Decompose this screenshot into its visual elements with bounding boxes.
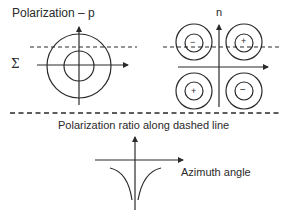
left-panel-title: Polarization – p: [12, 6, 95, 20]
diagram-canvas: [0, 0, 290, 219]
right-quadrant-plot: [163, 24, 280, 109]
sigma-label: Σ: [11, 57, 19, 71]
ratio-curve-left: [110, 168, 132, 200]
ratio-curve-right: [138, 168, 161, 200]
sign-top-left: −: [190, 37, 195, 47]
sign-bottom-left: +: [191, 86, 196, 96]
left-polarization-plot: [30, 27, 137, 105]
azimuth-axis-label: Azimuth angle: [181, 166, 251, 178]
sign-bottom-right: −: [240, 84, 246, 95]
sign-top-right: +: [241, 36, 246, 46]
polarization-ratio-plot: [95, 137, 183, 210]
ratio-plot-title: Polarization ratio along dashed line: [58, 119, 229, 131]
n-axis-label: n: [216, 6, 222, 18]
